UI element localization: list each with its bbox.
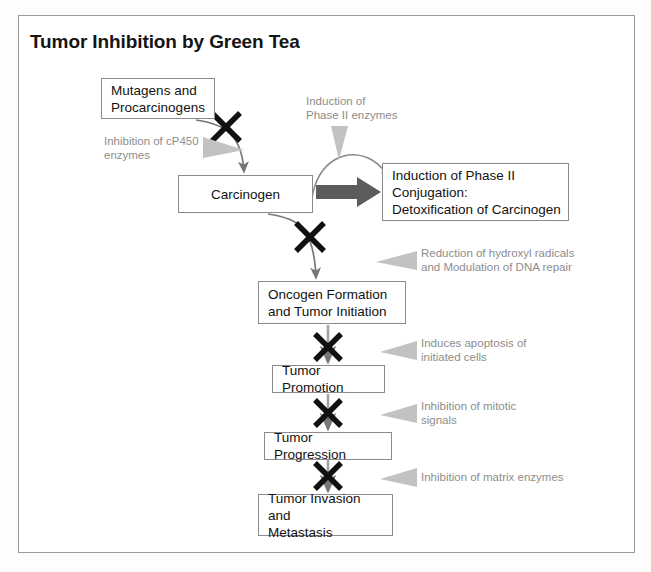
node-tumor-invasion[interactable]: Tumor Invasion and Metastasis [258,494,393,536]
node-phase2-label: Induction of Phase II Conjugation: Detox… [392,167,562,218]
annotation-phase2-enzymes: Induction of Phase II enzymes [306,94,397,122]
node-mutagens[interactable]: Mutagens and Procarcinogens [101,78,215,119]
node-mutagens-label: Mutagens and Procarcinogens [111,82,205,116]
node-carcinogen[interactable]: Carcinogen [178,175,313,213]
node-oncogen-formation[interactable]: Oncogen Formation and Tumor Initiation [258,281,406,324]
annotation-matrix-enzymes: Inhibition of matrix enzymes [421,470,564,484]
node-tumor-promotion[interactable]: Tumor Promotion [272,365,385,393]
diagram-title: Tumor Inhibition by Green Tea [30,31,300,53]
figure-root: Tumor Inhibition by Green Tea [0,0,651,572]
node-progression-label: Tumor Progression [274,429,385,463]
annotation-hydroxyl-radicals: Reduction of hydroxyl radicals and Modul… [421,246,574,274]
node-oncogen-label: Oncogen Formation and Tumor Initiation [268,286,399,320]
node-phase2-conjugation[interactable]: Induction of Phase II Conjugation: Detox… [382,163,569,221]
annotation-cp450: Inhibition of cP450 enzymes [104,134,199,162]
annotation-mitotic-signals: Inhibition of mitotic signals [421,399,516,427]
node-invasion-label: Tumor Invasion and Metastasis [268,490,386,541]
node-promotion-label: Tumor Promotion [282,362,378,396]
annotation-apoptosis: Induces apoptosis of initiated cells [421,336,527,364]
node-tumor-progression[interactable]: Tumor Progression [264,432,392,460]
node-carcinogen-label: Carcinogen [211,186,280,203]
